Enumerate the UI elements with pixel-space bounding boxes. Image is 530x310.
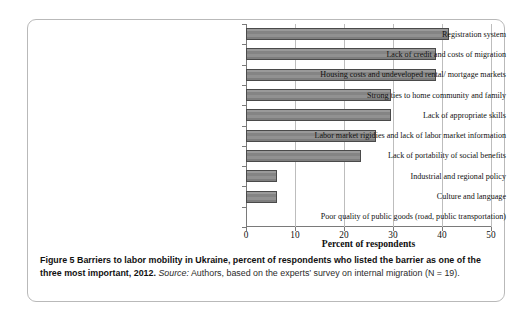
category-label: Lack of credit and costs of migration (296, 50, 506, 59)
category-label: Registration system (296, 30, 506, 39)
y-tick-mark (242, 65, 246, 66)
figure-container: Registration systemLack of credit and co… (27, 19, 505, 302)
category-label: Poor quality of public goods (road, publ… (296, 212, 506, 221)
x-axis-line (246, 226, 491, 227)
category-label: Housing costs and undeveloped rental/ mo… (296, 70, 506, 79)
bar (246, 191, 277, 203)
category-label: Labor market rigidies and lack of labor … (296, 131, 506, 140)
y-tick-mark (242, 186, 246, 187)
category-label: Lack of portability of social benefits (296, 151, 506, 160)
y-tick-mark (242, 24, 246, 25)
y-tick-mark (242, 85, 246, 86)
y-tick-mark (242, 105, 246, 106)
y-tick-mark (242, 44, 246, 45)
category-label: Industrial and regional policy (296, 172, 506, 181)
y-tick-mark (242, 146, 246, 147)
y-tick-mark (242, 166, 246, 167)
category-label: Lack of appropriate skills (296, 111, 506, 120)
bar (246, 170, 277, 182)
y-tick-mark (242, 207, 246, 208)
figure-caption: Figure 5 Barriers to labor mobility in U… (40, 254, 492, 279)
bar-chart: Registration systemLack of credit and co… (28, 20, 506, 245)
x-axis-title: Percent of respondents (246, 238, 491, 249)
caption-source-label: Source: (158, 268, 189, 278)
caption-source-text: Authors, based on the experts’ survey on… (191, 268, 460, 278)
category-label: Strong ties to home community and family (296, 91, 506, 100)
y-tick-mark (242, 126, 246, 127)
category-label: Culture and language (296, 192, 506, 201)
